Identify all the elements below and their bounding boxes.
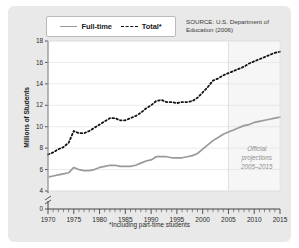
chart-inner: SOURCE: U.S. Department of Education (20… xyxy=(8,6,291,242)
line-solid-icon xyxy=(60,26,77,27)
legend-item-total: Total* xyxy=(121,22,162,31)
y-tick-label: 0 xyxy=(39,205,43,212)
line-dashed-icon xyxy=(121,26,138,27)
legend-label-full-time: Full-time xyxy=(81,22,111,31)
chart-footnote: *Including part-time students xyxy=(8,221,291,228)
y-tick-label: 10 xyxy=(36,123,44,130)
y-tick-label: 12 xyxy=(36,101,44,108)
projection-annotation-line1: Official xyxy=(247,145,267,152)
chart-card: SOURCE: U.S. Department of Education (20… xyxy=(8,6,291,242)
y-tick-label: 4 xyxy=(39,187,43,194)
plot-area: 0468101214161819701975198019851990199520… xyxy=(8,6,291,242)
legend-label-total: Total* xyxy=(142,22,162,31)
y-tick-label: 6 xyxy=(39,166,43,173)
projection-annotation-line2: projections xyxy=(241,154,273,162)
y-tick-label: 14 xyxy=(36,80,44,87)
y-tick-label: 18 xyxy=(36,37,44,44)
chart-legend: Full-time Total* xyxy=(46,16,176,37)
legend-item-full-time: Full-time xyxy=(60,22,111,31)
y-tick-label: 16 xyxy=(36,59,44,66)
projection-annotation-line3: 2005–2015 xyxy=(240,163,273,170)
y-tick-label: 8 xyxy=(39,144,43,151)
y-axis-label: Millions of Students xyxy=(23,83,30,153)
line-chart-svg: 0468101214161819701975198019851990199520… xyxy=(8,6,291,242)
